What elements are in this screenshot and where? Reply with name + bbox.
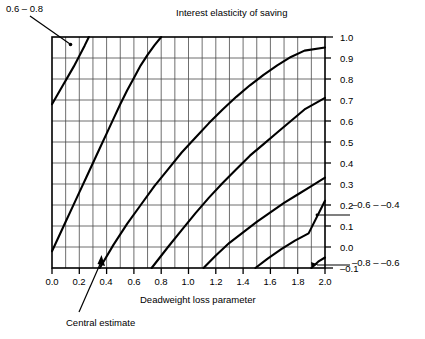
chart-figure: Interest elasticity of saving 0.6 – 0.8 … [0, 0, 425, 339]
callout-leader-top-left [30, 16, 72, 46]
right-axis-ticks [325, 37, 333, 268]
bottom-axis-ticks [52, 268, 325, 274]
chart-plot-svg [0, 0, 425, 339]
